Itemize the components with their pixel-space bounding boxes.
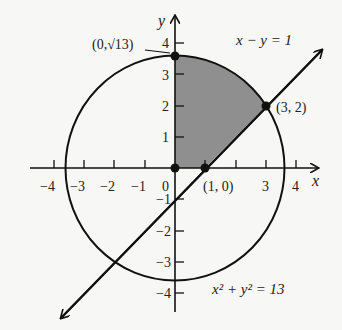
line-equation-label: x − y = 1 (235, 32, 292, 48)
point-top-label: (0,√13) (92, 37, 134, 53)
y-tick-label-neg4: −4 (156, 286, 171, 301)
x-tick-label-neg4: −4 (40, 179, 55, 194)
point-x-intercept (201, 164, 210, 173)
x-axis-label: x (311, 172, 319, 189)
y-tick-label-1: 1 (162, 130, 169, 145)
x-tick-label-3: 3 (262, 179, 269, 194)
point-origin (171, 164, 180, 173)
y-tick-label-neg3: −3 (156, 255, 171, 270)
x-tick-label-neg3: −3 (70, 179, 85, 194)
circle-equation-label: x² + y² = 13 (211, 281, 285, 297)
x-tick-label-4: 4 (292, 179, 299, 194)
coordinate-diagram: y x −4 −3 −2 −1 0 3 4 4 3 2 1 −1 −2 −3 −… (0, 0, 342, 330)
y-tick-label-4: 4 (162, 36, 169, 51)
y-tick-label-3: 3 (162, 68, 169, 83)
y-tick-label-neg1: −1 (156, 192, 171, 207)
point-x-intercept-label: (1, 0) (203, 179, 234, 195)
point-intersection (262, 102, 271, 111)
y-tick-label-neg2: −2 (156, 224, 171, 239)
y-axis-label: y (156, 12, 166, 30)
point-top (171, 52, 180, 61)
shaded-region (175, 56, 266, 168)
x-tick-label-neg2: −2 (100, 179, 115, 194)
y-tick-label-2: 2 (162, 99, 169, 114)
x-tick-label-neg1: −1 (131, 179, 146, 194)
point-intersection-label: (3, 2) (276, 100, 307, 116)
